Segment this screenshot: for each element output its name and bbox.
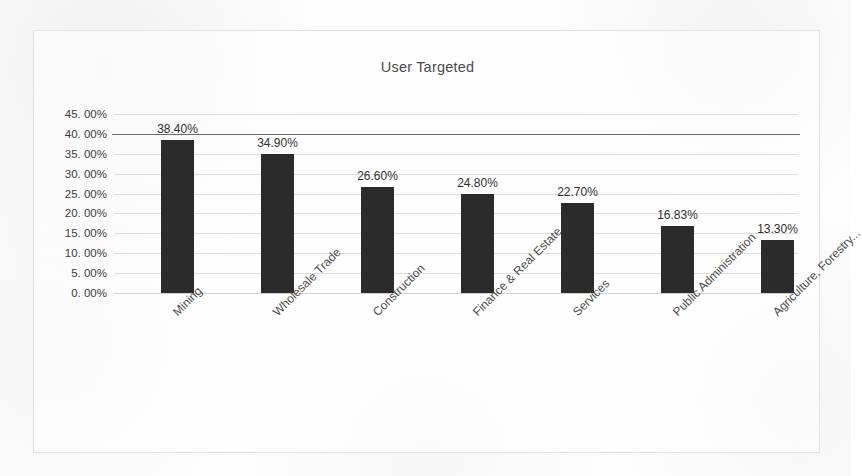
y-axis-tick-label: 20. 00% — [37, 207, 107, 219]
bar[interactable] — [461, 194, 494, 293]
y-axis-tick-label: 45. 00% — [37, 108, 107, 120]
gridline — [114, 114, 798, 115]
ghost-text-top — [128, 6, 132, 23]
bar[interactable] — [261, 154, 294, 293]
y-axis-tick-label: 40. 00% — [37, 128, 107, 140]
bar[interactable] — [361, 187, 394, 293]
bar-value-label: 26.60% — [333, 169, 423, 183]
plot-area: 38.40%34.90%26.60%24.80%22.70%16.83%13.3… — [114, 114, 798, 293]
y-axis-tick-label: 15. 00% — [37, 227, 107, 239]
bar[interactable] — [761, 240, 794, 293]
bar-value-label: 38.40% — [133, 122, 223, 136]
bar-value-label: 22.70% — [533, 185, 623, 199]
y-axis-tick-label: 30. 00% — [37, 168, 107, 180]
y-axis-tick-label: 25. 00% — [37, 188, 107, 200]
gridline — [114, 154, 798, 155]
chart-title: User Targeted — [34, 59, 821, 75]
bar-value-label: 34.90% — [233, 136, 323, 150]
y-axis-tick-label: 5. 00% — [37, 267, 107, 279]
gridline — [114, 174, 798, 175]
y-axis-tick-label: 35. 00% — [37, 148, 107, 160]
gridline — [114, 233, 798, 234]
gridline — [114, 253, 798, 254]
y-axis-tick-label: 10. 00% — [37, 247, 107, 259]
chart-container: User Targeted 45. 00%40. 00%35. 00%30. 0… — [33, 30, 820, 453]
gridline — [114, 194, 798, 195]
y-axis: 45. 00%40. 00%35. 00%30. 00%25. 00%20. 0… — [37, 114, 107, 293]
y-axis-tick-label: 0. 00% — [37, 287, 107, 299]
bar[interactable] — [561, 203, 594, 293]
bar[interactable] — [161, 140, 194, 293]
bar-value-label: 24.80% — [433, 176, 523, 190]
gridline — [114, 273, 798, 274]
bar[interactable] — [661, 226, 694, 293]
bar-value-label: 16.83% — [633, 208, 723, 222]
